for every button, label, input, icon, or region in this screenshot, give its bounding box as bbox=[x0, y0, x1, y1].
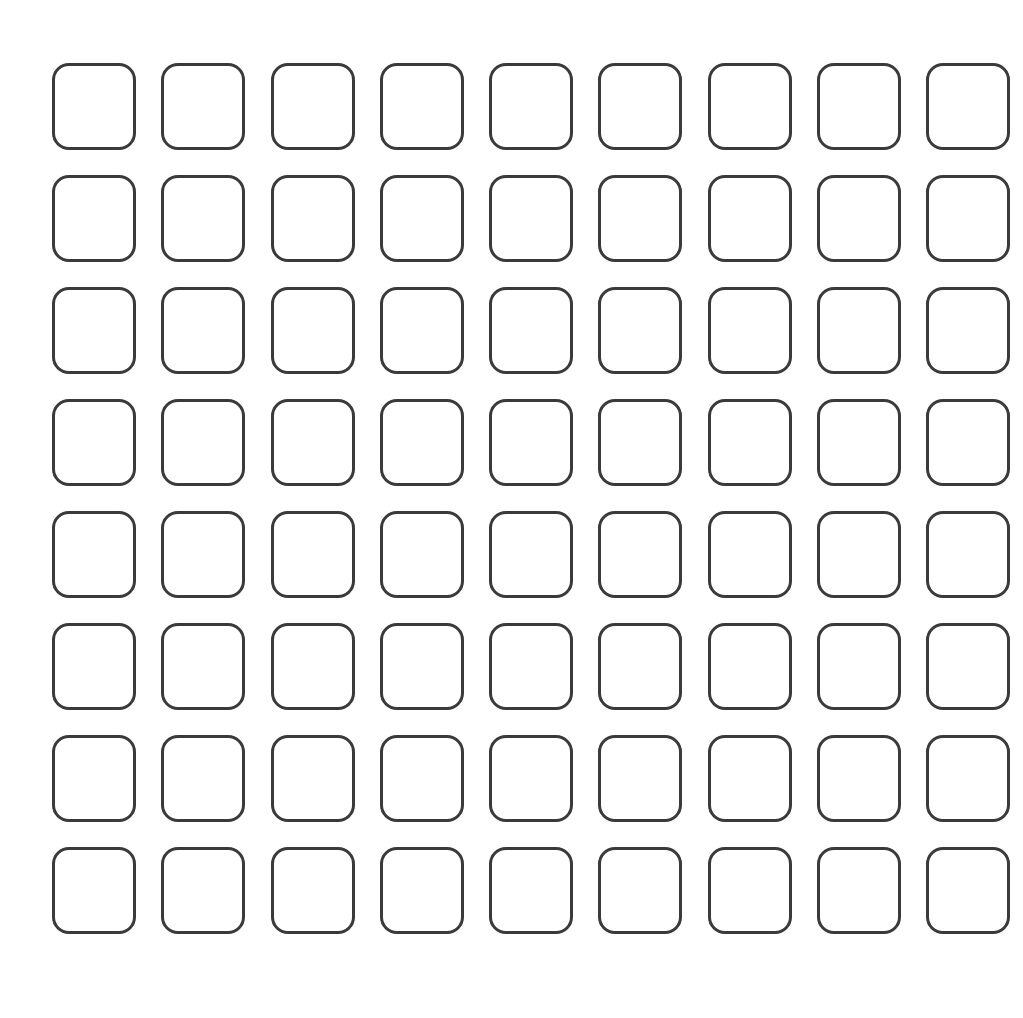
grid-cell bbox=[926, 847, 1010, 934]
grid-cell bbox=[598, 623, 682, 710]
grid-cell bbox=[817, 623, 901, 710]
grid-cell bbox=[708, 399, 792, 486]
grid-cell bbox=[271, 63, 355, 150]
grid-cell bbox=[708, 847, 792, 934]
grid-cell bbox=[708, 735, 792, 822]
grid-cell bbox=[926, 287, 1010, 374]
grid-cell bbox=[489, 623, 573, 710]
grid-cell bbox=[489, 175, 573, 262]
grid-cell bbox=[708, 63, 792, 150]
grid-cell bbox=[161, 287, 245, 374]
grid-cell bbox=[489, 399, 573, 486]
grid-cell bbox=[926, 175, 1010, 262]
grid-cell bbox=[380, 399, 464, 486]
grid-cell bbox=[817, 175, 901, 262]
grid-cell bbox=[708, 287, 792, 374]
grid-cell bbox=[489, 735, 573, 822]
grid-cell bbox=[271, 847, 355, 934]
grid-cell bbox=[271, 735, 355, 822]
grid-cell bbox=[926, 735, 1010, 822]
grid-cell bbox=[380, 175, 464, 262]
grid-cell bbox=[161, 511, 245, 598]
grid-cell bbox=[708, 623, 792, 710]
grid-cell bbox=[598, 399, 682, 486]
grid-cell bbox=[380, 63, 464, 150]
grid-cell bbox=[52, 399, 136, 486]
grid-cell bbox=[817, 399, 901, 486]
grid-cell bbox=[52, 623, 136, 710]
grid-cell bbox=[489, 63, 573, 150]
grid-cell bbox=[817, 511, 901, 598]
grid-cell bbox=[380, 735, 464, 822]
grid-cell bbox=[598, 63, 682, 150]
grid-cell bbox=[52, 735, 136, 822]
grid-cell bbox=[271, 175, 355, 262]
grid-cell bbox=[380, 287, 464, 374]
grid-cell bbox=[52, 287, 136, 374]
grid-cell bbox=[161, 175, 245, 262]
rounded-square-grid bbox=[52, 63, 1010, 934]
grid-cell bbox=[380, 511, 464, 598]
grid-cell bbox=[489, 287, 573, 374]
grid-cell bbox=[52, 63, 136, 150]
grid-cell bbox=[708, 511, 792, 598]
grid-cell bbox=[271, 399, 355, 486]
grid-cell bbox=[817, 735, 901, 822]
grid-cell bbox=[52, 847, 136, 934]
grid-cell bbox=[271, 287, 355, 374]
grid-cell bbox=[380, 623, 464, 710]
grid-cell bbox=[598, 511, 682, 598]
grid-cell bbox=[817, 287, 901, 374]
grid-cell bbox=[489, 511, 573, 598]
grid-cell bbox=[817, 847, 901, 934]
grid-cell bbox=[271, 511, 355, 598]
grid-cell bbox=[926, 623, 1010, 710]
grid-cell bbox=[598, 287, 682, 374]
grid-cell bbox=[598, 735, 682, 822]
grid-cell bbox=[598, 175, 682, 262]
grid-cell bbox=[161, 399, 245, 486]
grid-cell bbox=[52, 175, 136, 262]
grid-cell bbox=[598, 847, 682, 934]
grid-cell bbox=[52, 511, 136, 598]
grid-cell bbox=[161, 847, 245, 934]
grid-cell bbox=[817, 63, 901, 150]
grid-cell bbox=[926, 511, 1010, 598]
grid-cell bbox=[926, 63, 1010, 150]
grid-cell bbox=[708, 175, 792, 262]
grid-cell bbox=[489, 847, 573, 934]
grid-cell bbox=[161, 63, 245, 150]
grid-cell bbox=[161, 623, 245, 710]
grid-cell bbox=[380, 847, 464, 934]
grid-cell bbox=[271, 623, 355, 710]
grid-cell bbox=[161, 735, 245, 822]
grid-cell bbox=[926, 399, 1010, 486]
